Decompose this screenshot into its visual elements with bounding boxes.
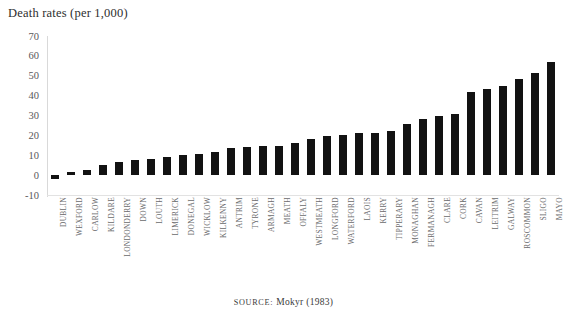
x-axis-label-slot: WESTMEATH: [303, 197, 319, 293]
x-axis-label-slot: LIMERICK: [159, 197, 175, 293]
bar-slot: [399, 36, 415, 195]
bar-slot: [271, 36, 287, 195]
bar[interactable]: [451, 114, 460, 176]
chart-title: Death rates (per 1,000): [8, 6, 128, 21]
x-axis-label-slot: WEXFORD: [63, 197, 79, 293]
x-axis-labels: DUBLINWEXFORDCARLOWKILDARELONDONDERRYDOW…: [47, 197, 559, 297]
x-axis-label-slot: DONEGAL: [175, 197, 191, 293]
bar-slot: [191, 36, 207, 195]
bar[interactable]: [419, 119, 428, 175]
x-axis-label: MAYO: [555, 197, 564, 220]
bar[interactable]: [211, 152, 220, 175]
bar-slot: [239, 36, 255, 195]
y-axis-tick-0: 0: [34, 170, 39, 181]
bar[interactable]: [387, 131, 396, 175]
x-axis-label-slot: CARLOW: [79, 197, 95, 293]
bar-slot: [319, 36, 335, 195]
bar-slot: [383, 36, 399, 195]
bar[interactable]: [147, 159, 156, 175]
y-axis-tick-40: 40: [29, 90, 40, 101]
bar[interactable]: [355, 133, 364, 175]
bar[interactable]: [99, 165, 108, 175]
bar[interactable]: [435, 116, 444, 175]
x-axis-label-slot: WATERFORD: [335, 197, 351, 293]
x-axis-label-slot: OFFALY: [287, 197, 303, 293]
bar-slot: [111, 36, 127, 195]
x-axis-label-slot: ARMAGH: [255, 197, 271, 293]
bar[interactable]: [115, 162, 124, 175]
x-axis-label-slot: MAYO: [543, 197, 559, 293]
bar[interactable]: [51, 175, 60, 179]
x-axis-label-slot: DUBLIN: [47, 197, 63, 293]
x-axis-label-slot: ANTRIM: [223, 197, 239, 293]
x-axis-label-slot: KILKENNY: [207, 197, 223, 293]
bar[interactable]: [339, 135, 348, 175]
y-axis-tick-60: 60: [29, 50, 40, 61]
x-axis-label-slot: LONDONDERRY: [111, 197, 127, 293]
bar-slot: [335, 36, 351, 195]
x-axis-label-slot: CLARE: [431, 197, 447, 293]
bar-slot: [351, 36, 367, 195]
bar[interactable]: [515, 79, 524, 175]
bar[interactable]: [371, 133, 380, 175]
bar[interactable]: [243, 147, 252, 175]
x-axis-label-slot: GALWAY: [495, 197, 511, 293]
bar[interactable]: [227, 148, 236, 175]
x-axis-label-slot: SLIGO: [527, 197, 543, 293]
x-axis-label-slot: LEITRIM: [479, 197, 495, 293]
bar-slot: [495, 36, 511, 195]
bars-layer: [47, 36, 559, 195]
bar[interactable]: [403, 124, 412, 175]
bar[interactable]: [307, 139, 316, 175]
bar-slot: [415, 36, 431, 195]
bar[interactable]: [323, 136, 332, 175]
bar[interactable]: [83, 170, 92, 175]
bar-slot: [207, 36, 223, 195]
x-axis-label-slot: MEATH: [271, 197, 287, 293]
bar[interactable]: [67, 172, 76, 175]
bar-slot: [159, 36, 175, 195]
x-axis-label-slot: DOWN: [127, 197, 143, 293]
x-axis-label-slot: FERMANAGH: [415, 197, 431, 293]
bar[interactable]: [483, 89, 492, 175]
source-note: SOURCE:Mokyr (1983): [0, 297, 567, 307]
bar[interactable]: [499, 86, 508, 175]
bar[interactable]: [163, 157, 172, 175]
x-axis-label-slot: KERRY: [367, 197, 383, 293]
bar-slot: [511, 36, 527, 195]
x-axis-label-slot: ROSCOMMON: [511, 197, 527, 293]
bar-slot: [367, 36, 383, 195]
bar-slot: [431, 36, 447, 195]
y-axis-tick-30: 30: [29, 110, 40, 121]
source-text: Mokyr (1983): [276, 297, 333, 307]
source-label: SOURCE:: [234, 298, 273, 307]
bar[interactable]: [275, 146, 284, 175]
bar[interactable]: [531, 73, 540, 175]
bar[interactable]: [179, 155, 188, 175]
bar-slot: [47, 36, 63, 195]
bar[interactable]: [259, 146, 268, 175]
x-axis-label-slot: TIPPERARY: [383, 197, 399, 293]
x-axis-label-slot: LONGFORD: [319, 197, 335, 293]
bar-slot: [303, 36, 319, 195]
bar[interactable]: [195, 154, 204, 175]
bar-slot: [63, 36, 79, 195]
x-axis-label-slot: CAVAN: [463, 197, 479, 293]
bar[interactable]: [131, 160, 140, 175]
bar[interactable]: [547, 62, 556, 175]
x-axis-label-slot: LOUTH: [143, 197, 159, 293]
x-axis-label-slot: LAOIS: [351, 197, 367, 293]
x-axis-label-slot: KILDARE: [95, 197, 111, 293]
bar-slot: [287, 36, 303, 195]
y-axis-tick-20: 20: [29, 130, 40, 141]
bar[interactable]: [291, 143, 300, 175]
chart-figure: Death rates (per 1,000) 706050403020100-…: [0, 0, 567, 319]
x-axis-label-slot: CORK: [447, 197, 463, 293]
y-axis-tick-50: 50: [29, 70, 40, 81]
bar-slot: [143, 36, 159, 195]
bar[interactable]: [467, 92, 476, 175]
y-axis-tick-10: 10: [29, 150, 40, 161]
bar-slot: [463, 36, 479, 195]
bar-slot: [223, 36, 239, 195]
bar-slot: [543, 36, 559, 195]
